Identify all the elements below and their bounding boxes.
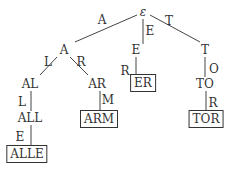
edge-label-R: R: [208, 97, 217, 109]
edge-label-O: O: [209, 63, 219, 75]
edge-label-T: T: [165, 15, 173, 27]
edge-root-T: [150, 15, 200, 42]
node-TOR-terminal: TOR: [189, 110, 224, 128]
node-ER-terminal: ER: [130, 74, 156, 92]
node-AR: AR: [88, 78, 106, 90]
node-ALLE-terminal: ALLE: [6, 145, 47, 163]
edge-label-E: E: [16, 131, 25, 143]
node-ALL: ALL: [18, 112, 43, 124]
edge-label-M: M: [102, 94, 114, 106]
root-node: ε: [140, 6, 146, 18]
node-TO: TO: [196, 78, 214, 90]
node-ARM-terminal: ARM: [80, 110, 118, 128]
edge-label-R: R: [120, 65, 129, 77]
edge-label-L: L: [44, 56, 52, 68]
trie-diagram: ε A E T AL AR ER TO ALL ARM TOR ALLE A E…: [0, 0, 232, 172]
edge-label-E: E: [146, 25, 155, 37]
node-AL: AL: [22, 78, 39, 90]
node-E: E: [132, 44, 141, 56]
edge-label-A: A: [98, 14, 107, 26]
edge-label-L: L: [18, 96, 26, 108]
node-A: A: [60, 44, 69, 56]
node-T: T: [201, 44, 209, 56]
edge-label-R: R: [76, 56, 85, 68]
